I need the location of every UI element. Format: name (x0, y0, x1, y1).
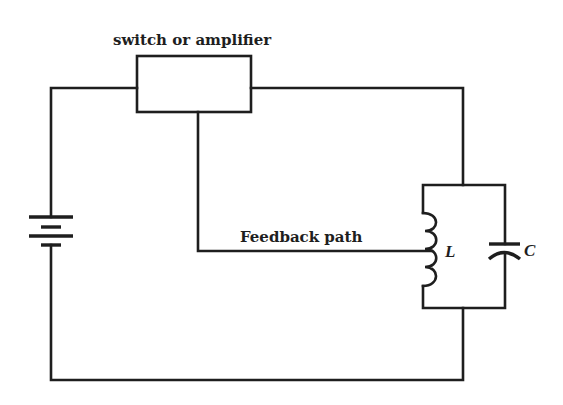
inductor-label: L (444, 242, 455, 261)
capacitor-label: C (524, 241, 536, 260)
lc-tank-circuit: L C (423, 185, 536, 308)
wire-return-bottom (51, 245, 463, 380)
amplifier-block (137, 56, 251, 112)
battery-icon (29, 217, 73, 245)
feedback-path-label: Feedback path (240, 228, 362, 246)
wire-battery-to-amplifier (51, 88, 137, 217)
wire-amplifier-to-tank (251, 88, 463, 185)
oscillator-circuit-diagram: switch or amplifier Feedback path L C (0, 0, 563, 405)
inductor-icon (423, 213, 436, 286)
amplifier-label: switch or amplifier (113, 31, 272, 49)
